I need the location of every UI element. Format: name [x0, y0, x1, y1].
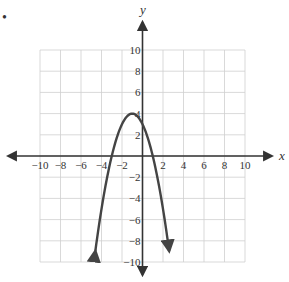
- x-axis-label: x: [278, 148, 285, 163]
- svg-text:−2: −2: [116, 159, 128, 171]
- svg-text:−8: −8: [129, 235, 141, 247]
- svg-text:4: 4: [181, 159, 187, 171]
- svg-text:−4: −4: [96, 159, 108, 171]
- svg-text:−2: −2: [129, 171, 141, 183]
- coordinate-plane: −10−8−6−4−2246810108642−2−4−6−8−10 x y: [0, 0, 289, 282]
- svg-text:2: 2: [135, 129, 141, 141]
- svg-text:2: 2: [160, 159, 166, 171]
- svg-text:−8: −8: [55, 159, 67, 171]
- svg-text:10: 10: [240, 159, 252, 171]
- svg-text:−10: −10: [31, 159, 49, 171]
- svg-text:−4: −4: [129, 192, 141, 204]
- svg-text:6: 6: [135, 86, 141, 98]
- svg-text:6: 6: [201, 159, 207, 171]
- svg-text:8: 8: [135, 65, 141, 77]
- svg-text:−6: −6: [75, 159, 87, 171]
- svg-text:10: 10: [130, 44, 142, 56]
- svg-text:−6: −6: [129, 214, 141, 226]
- svg-text:−10: −10: [123, 256, 141, 268]
- y-axis-label: y: [138, 2, 146, 17]
- svg-text:8: 8: [222, 159, 228, 171]
